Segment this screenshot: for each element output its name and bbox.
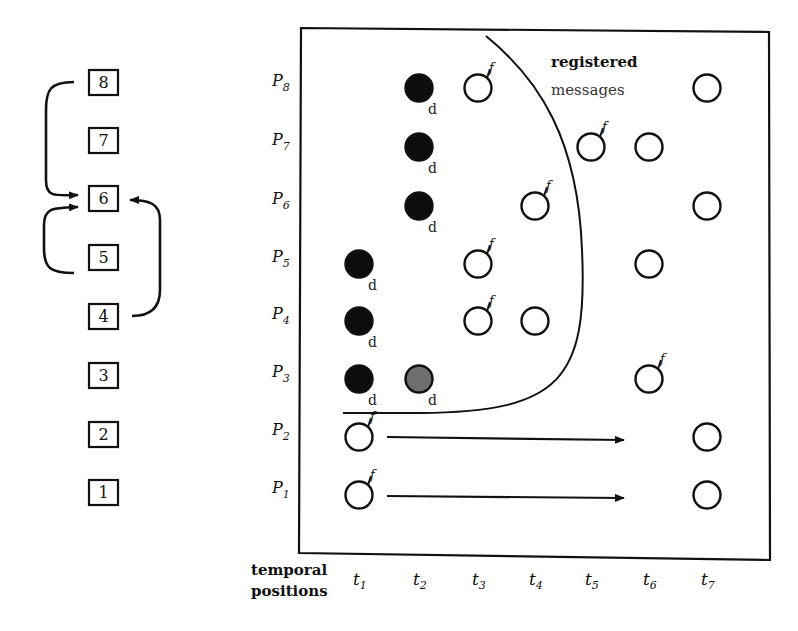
col-label-t4: t4: [529, 569, 543, 592]
node-p4-t4: [522, 308, 549, 335]
mark-f: f: [601, 119, 609, 134]
open-circle-icon: [694, 193, 721, 220]
node-p1-t1: f: [346, 467, 378, 509]
filled-circle-icon: [346, 308, 373, 335]
stack-box-4: 4: [89, 304, 118, 329]
node-p3-t1: d: [346, 366, 378, 409]
row-label-p6: P6: [271, 189, 290, 212]
node-p1-t7: [694, 482, 721, 509]
arrow-5-to-6: [44, 207, 78, 273]
stack-box-8: 8: [89, 70, 118, 95]
row-label-p4: P4: [271, 304, 290, 327]
mark-f: f: [488, 60, 496, 75]
arrow-p1: [387, 496, 624, 498]
stack-box-label: 5: [98, 248, 108, 267]
node-p5-t6: [636, 251, 663, 278]
filled-circle-icon: [346, 366, 373, 393]
stack-box-label: 6: [98, 189, 108, 208]
node-p8-t3: f: [465, 60, 497, 102]
node-p8-t2: d: [406, 75, 438, 118]
open-circle-icon: [346, 424, 373, 451]
mark-d: d: [368, 334, 377, 350]
open-circle-icon: [346, 482, 373, 509]
stack-box-3: 3: [89, 363, 118, 388]
node-p4-t3: f: [465, 293, 497, 335]
node-p6-t7: [694, 193, 721, 220]
node-p5-t1: d: [346, 251, 378, 294]
mark-d: d: [368, 392, 377, 408]
node-p7-t5: f: [578, 119, 610, 161]
col-label-t6: t6: [643, 569, 657, 592]
node-p7-t6: [636, 134, 663, 161]
node-p3-t2: d: [406, 366, 438, 409]
nodes: dfdfdfdfdfddfff: [346, 60, 721, 509]
open-circle-icon: [522, 308, 549, 335]
mark-d: d: [428, 101, 437, 117]
stack-box-5: 5: [89, 245, 118, 270]
region-label-messages: messages: [551, 81, 625, 99]
arrow-4-to-6: [130, 200, 160, 316]
mark-d: d: [428, 219, 437, 235]
stack-box-7: 7: [89, 128, 118, 153]
row-label-p2: P2: [271, 420, 290, 443]
open-circle-icon: [694, 75, 721, 102]
open-circle-icon: [636, 251, 663, 278]
filled-circle-icon: [406, 193, 433, 220]
filled-circle-icon: [346, 251, 373, 278]
open-circle-icon: [578, 134, 605, 161]
open-circle-icon: [465, 75, 492, 102]
mark-d: d: [428, 160, 437, 176]
filled-circle-icon: [406, 366, 433, 393]
row-label-p1: P1: [271, 478, 290, 501]
stack-box-label: 3: [98, 366, 108, 385]
open-circle-icon: [465, 251, 492, 278]
node-p4-t1: d: [346, 308, 378, 351]
region-label-registered: registered: [551, 53, 638, 71]
col-label-t7: t7: [701, 569, 715, 592]
col-label-t2: t2: [413, 569, 427, 592]
mark-d: d: [368, 277, 377, 293]
arrow-8-to-6: [46, 82, 78, 195]
node-p6-t4: f: [522, 178, 554, 220]
row-label-p3: P3: [271, 362, 290, 385]
mark-f: f: [545, 178, 553, 193]
registered-boundary-curve: [343, 36, 583, 413]
mark-f: f: [369, 409, 377, 424]
node-p8-t7: [694, 75, 721, 102]
mark-f: f: [488, 293, 496, 308]
column-labels: t1t2t3t4t5t6t7: [353, 569, 715, 592]
row-label-p8: P8: [271, 71, 290, 94]
open-circle-icon: [694, 482, 721, 509]
stack-box-label: 8: [98, 73, 108, 92]
stack-box-1: 1: [89, 480, 118, 505]
open-circle-icon: [636, 366, 663, 393]
row-label-p7: P7: [271, 130, 290, 153]
stack-box-2: 2: [89, 422, 118, 447]
arrow-p2: [387, 437, 624, 440]
row-label-p5: P5: [271, 247, 290, 270]
mark-f: f: [488, 236, 496, 251]
process-stack: 12345678: [89, 70, 118, 505]
mark-d: d: [428, 392, 437, 408]
col-label-t1: t1: [353, 569, 367, 592]
diagram-canvas: 12345678 P8P7P6P5P4P3P2P1 t1t2t3t4t5t6t7…: [0, 0, 798, 631]
mark-f: f: [659, 351, 667, 366]
stack-box-label: 1: [98, 483, 108, 502]
filled-circle-icon: [406, 134, 433, 161]
node-p6-t2: d: [406, 193, 438, 236]
open-circle-icon: [522, 193, 549, 220]
node-p7-t2: d: [406, 134, 438, 177]
stack-box-label: 7: [98, 131, 108, 150]
stack-box-label: 2: [98, 425, 108, 444]
stack-box-label: 4: [98, 307, 108, 326]
open-circle-icon: [465, 308, 492, 335]
row-labels: P8P7P6P5P4P3P2P1: [271, 71, 290, 501]
mark-f: f: [369, 467, 377, 482]
node-p3-t6: f: [636, 351, 668, 393]
stack-box-6: 6: [89, 186, 118, 211]
col-label-t3: t3: [472, 569, 486, 592]
open-circle-icon: [636, 134, 663, 161]
node-p2-t1: f: [346, 409, 378, 451]
node-p2-t7: [694, 424, 721, 451]
axis-label-temporal: temporal: [251, 561, 327, 579]
